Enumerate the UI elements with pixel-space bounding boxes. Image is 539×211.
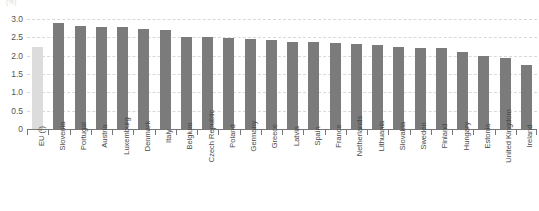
bar[interactable] (266, 40, 277, 129)
x-label-slot: Hungary (452, 136, 473, 208)
bar-slot (303, 19, 324, 129)
x-label-slot: United Kingdom (495, 136, 516, 208)
tick-mark (112, 130, 113, 135)
x-label-slot: Denmark (133, 136, 154, 208)
tick-mark (27, 130, 28, 135)
bar-slot (282, 19, 303, 129)
bar[interactable] (117, 27, 128, 129)
category-label: EU (²) (38, 126, 46, 146)
bar[interactable] (138, 29, 149, 129)
bar-slot (112, 19, 133, 129)
bar-slot (452, 19, 473, 129)
bar-slot (346, 19, 367, 129)
category-label: Hungary (463, 122, 471, 150)
y-axis-tick-label: 0.5 (11, 106, 23, 115)
bar[interactable] (223, 38, 234, 129)
x-axis-labels: EU (²)SloveniaPortugalAustriaLuxemburgDe… (27, 136, 537, 208)
bar-slot (410, 19, 431, 129)
category-label: Slovenia (59, 122, 67, 151)
category-label: Italy (165, 129, 173, 143)
category-label: Sweden (420, 122, 428, 149)
x-label-slot: Luxemburg (112, 136, 133, 208)
category-label: United Kingdom (505, 109, 513, 162)
category-label: Czech Republic (208, 110, 216, 163)
x-label-slot: France (325, 136, 346, 208)
bar[interactable] (96, 27, 107, 129)
tick-mark (346, 130, 347, 135)
bar-chart: (%) 3.02.52.01.51.00.50 EU (²)SloveniaPo… (0, 0, 539, 211)
bar[interactable] (393, 47, 404, 130)
category-label: Denmark (144, 121, 152, 151)
bar-slot (27, 19, 48, 129)
tick-mark (261, 130, 262, 135)
x-label-slot: Sweden (410, 136, 431, 208)
bar[interactable] (75, 26, 86, 129)
tick-mark (410, 130, 411, 135)
tick-mark (240, 130, 241, 135)
tick-mark (495, 130, 496, 135)
bar-slot (133, 19, 154, 129)
bar[interactable] (160, 30, 171, 129)
x-label-slot: Finland (431, 136, 452, 208)
tick-mark (452, 130, 453, 135)
category-label: Germany (250, 121, 258, 152)
x-label-slot: Ireland (516, 136, 537, 208)
tick-mark (303, 130, 304, 135)
bar-slot (431, 19, 452, 129)
x-label-slot: Czech Republic (197, 136, 218, 208)
y-axis-tick-label: 2.5 (11, 33, 23, 42)
bar-slot (155, 19, 176, 129)
tick-mark (91, 130, 92, 135)
bar-slot (48, 19, 69, 129)
bar[interactable] (457, 52, 468, 129)
category-label: Estonia (484, 123, 492, 148)
bar[interactable] (308, 42, 319, 129)
bar[interactable] (32, 47, 43, 130)
x-label-slot: Latvia (282, 136, 303, 208)
bar[interactable] (245, 39, 256, 129)
bar[interactable] (330, 43, 341, 129)
bar[interactable] (181, 37, 192, 129)
tick-mark (431, 130, 432, 135)
x-label-slot: Spain (303, 136, 324, 208)
category-label: Netherlands (356, 116, 364, 156)
y-axis: 3.02.52.01.51.00.50 (0, 14, 26, 130)
category-label: Austria (101, 124, 109, 147)
bar[interactable] (372, 45, 383, 129)
category-label: Lithuania (378, 121, 386, 151)
tick-mark (282, 130, 283, 135)
bar[interactable] (521, 65, 532, 129)
bar[interactable] (53, 23, 64, 129)
tick-mark (473, 130, 474, 135)
bar-slot (516, 19, 537, 129)
tick-mark (536, 130, 537, 135)
bar[interactable] (436, 48, 447, 129)
tick-mark (325, 130, 326, 135)
tick-mark (367, 130, 368, 135)
x-label-slot: EU (²) (27, 136, 48, 208)
category-label: Luxemburg (123, 117, 131, 155)
bar-series (27, 19, 537, 129)
tick-mark (516, 130, 517, 135)
bar-slot (473, 19, 494, 129)
category-label: Finland (441, 124, 449, 149)
bar[interactable] (478, 56, 489, 129)
category-label: Latvia (293, 126, 301, 146)
bar[interactable] (415, 48, 426, 129)
x-label-slot: Greece (261, 136, 282, 208)
bar-slot (70, 19, 91, 129)
x-label-slot: Netherlands (346, 136, 367, 208)
tick-mark (176, 130, 177, 135)
y-axis-tick-label: 3.0 (11, 15, 23, 24)
category-label: Greece (271, 124, 279, 149)
y-axis-tick-label: 0 (18, 125, 23, 134)
x-label-slot: Slovakia (388, 136, 409, 208)
x-label-slot: Italy (155, 136, 176, 208)
tick-mark (155, 130, 156, 135)
bar[interactable] (287, 42, 298, 129)
bar-slot (240, 19, 261, 129)
x-label-slot: Austria (91, 136, 112, 208)
category-label: Portugal (80, 122, 88, 150)
tick-mark (388, 130, 389, 135)
plot-area (27, 19, 537, 129)
